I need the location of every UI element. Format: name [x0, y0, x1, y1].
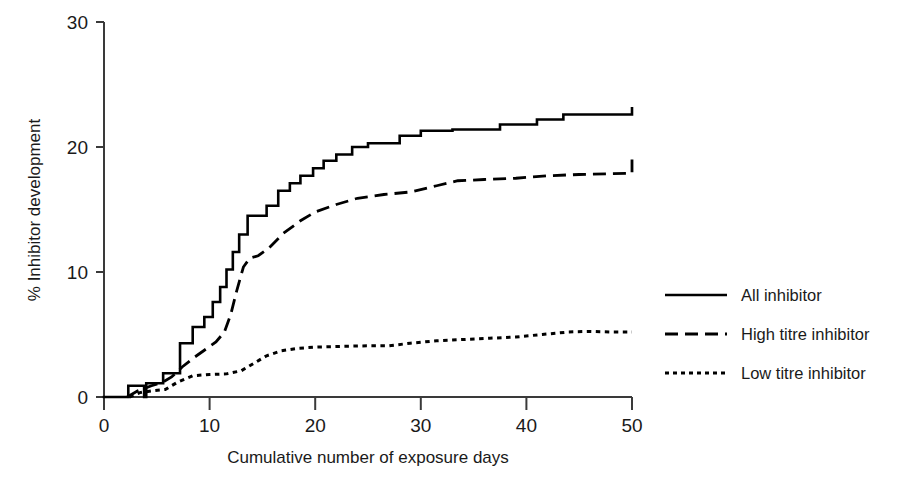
x-tick-label: 10 [199, 415, 220, 436]
chart-figure: 0102030 01020304050 % Inhibitor developm… [0, 0, 920, 493]
y-tick-label: 20 [67, 137, 88, 158]
x-tick-label: 50 [621, 415, 642, 436]
chart-background [0, 0, 920, 493]
y-tick-label: 0 [77, 387, 88, 408]
y-tick-label: 10 [67, 262, 88, 283]
x-tick-label: 30 [410, 415, 431, 436]
legend-label-high-titre-inhibitor: High titre inhibitor [741, 325, 870, 343]
x-axis-title: Cumulative number of exposure days [227, 448, 509, 467]
x-tick-label: 40 [516, 415, 537, 436]
legend-label-low-titre-inhibitor: Low titre inhibitor [741, 364, 866, 382]
legend-label-all-inhibitor: All inhibitor [741, 286, 822, 304]
x-tick-label: 0 [99, 415, 110, 436]
inhibitor-development-chart: 0102030 01020304050 % Inhibitor developm… [0, 0, 920, 493]
x-tick-label: 20 [305, 415, 326, 436]
y-tick-label: 30 [67, 12, 88, 33]
y-axis-title: % Inhibitor development [25, 119, 44, 302]
